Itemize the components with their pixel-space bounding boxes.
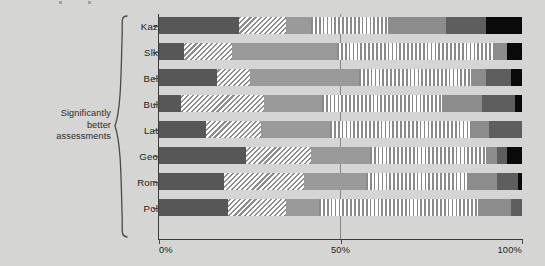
bar-row [159, 173, 522, 190]
y-axis-tick [153, 78, 158, 79]
bar-track [159, 121, 522, 138]
bar-segment-black [511, 69, 522, 86]
bar-track [159, 43, 522, 60]
bar-segment-vert [311, 17, 387, 34]
bar-segment-diag [181, 95, 264, 112]
bar-row [159, 69, 522, 86]
bar-segment-dark [159, 147, 246, 164]
bar-segment-diag [239, 17, 286, 34]
bar-segment-medium [250, 69, 359, 86]
category-axis-labels: KazSlkBelBulLatGeoRomPol [110, 14, 158, 239]
category-label-pol: Pol [114, 203, 158, 214]
bar-segment-diag [184, 43, 231, 60]
bar-segment-medium [261, 121, 330, 138]
x-axis-label-0: 0% [159, 245, 173, 255]
bar-segment-darkgray [497, 173, 519, 190]
category-label-geo: Geo [114, 151, 158, 162]
bar-segment-gray [471, 69, 486, 86]
plot-area [159, 14, 522, 239]
bar-segment-darkgray [511, 199, 522, 216]
bar-segment-gray [493, 43, 508, 60]
bar-row [159, 17, 522, 34]
bar-segment-dark [159, 121, 206, 138]
y-axis-tick [153, 130, 158, 131]
y-axis-tick [153, 208, 158, 209]
y-axis-tick [153, 104, 158, 105]
bar-segment-diag [246, 147, 311, 164]
bar-segment-dark [159, 69, 217, 86]
bar-segment-dark [159, 17, 239, 34]
bar-segment-dark [159, 173, 224, 190]
category-label-slk: Slk [114, 47, 158, 58]
bar-segment-diag [228, 199, 286, 216]
bar-track [159, 69, 522, 86]
bar-segment-diag [206, 121, 260, 138]
bar-segment-gray [471, 121, 489, 138]
x-axis-tick [341, 240, 342, 244]
category-group-annotation: Significantly better assessments [8, 108, 111, 143]
bar-segment-medium [304, 173, 366, 190]
x-axis-label-100: 100% [497, 245, 522, 255]
bar-segment-vert [319, 199, 479, 216]
category-label-kaz: Kaz [114, 21, 158, 32]
bar-segment-vert [330, 121, 472, 138]
bar-track [159, 199, 522, 216]
annotation-line-1: Significantly [8, 108, 111, 120]
bar-segment-gray [478, 199, 511, 216]
bar-row [159, 43, 522, 60]
category-label-bel: Bel [114, 73, 158, 84]
bar-segment-vert [370, 147, 486, 164]
bar-segment-medium [286, 17, 311, 34]
stacked-bar-chart: Significantly better assessments KazSlkB… [0, 0, 545, 266]
bar-row [159, 147, 522, 164]
bar-segment-medium [264, 95, 322, 112]
bar-track [159, 17, 522, 34]
bar-track [159, 173, 522, 190]
category-label-lat: Lat [114, 125, 158, 136]
bar-segment-gray [468, 173, 497, 190]
bar-segment-darkgray [497, 147, 508, 164]
bar-segment-black [486, 17, 522, 34]
bar-row [159, 95, 522, 112]
y-axis-tick [153, 52, 158, 53]
x-axis-tick [159, 240, 160, 244]
category-label-rom: Rom [114, 177, 158, 188]
bar-segment-darkgray [446, 17, 486, 34]
category-label-bul: Bul [114, 99, 158, 110]
bar-segment-black [518, 173, 522, 190]
bar-row [159, 121, 522, 138]
y-axis-tick [153, 156, 158, 157]
bar-segment-darkgray [482, 95, 515, 112]
bar-segment-black [507, 43, 522, 60]
bar-segment-dark [159, 95, 181, 112]
bar-segment-darkgray [489, 121, 522, 138]
bar-segment-diag [224, 173, 304, 190]
bar-segment-vert [359, 69, 472, 86]
bar-segment-gray [442, 95, 482, 112]
bar-row [159, 199, 522, 216]
bar-segment-black [515, 95, 522, 112]
bar-segment-darkgray [486, 69, 511, 86]
bar-segment-diag [217, 69, 250, 86]
scan-artifact [88, 1, 91, 4]
x-axis-label-50: 50% [331, 245, 350, 255]
bar-segment-dark [159, 43, 184, 60]
bar-track [159, 95, 522, 112]
bar-segment-black [507, 147, 522, 164]
y-axis-tick [153, 182, 158, 183]
bar-segment-dark [159, 199, 228, 216]
bar-segment-gray [388, 17, 446, 34]
x-axis-tick [522, 240, 523, 244]
scan-artifact [59, 1, 62, 4]
annotation-line-3: assessments [8, 131, 111, 143]
bar-segment-vert [337, 43, 493, 60]
bar-segment-medium [311, 147, 369, 164]
bar-track [159, 147, 522, 164]
bar-segment-medium [286, 199, 319, 216]
bar-segment-gray [486, 147, 497, 164]
bar-segment-vert [322, 95, 442, 112]
annotation-line-2: better [8, 120, 111, 132]
y-axis-tick [153, 26, 158, 27]
bar-segment-medium [232, 43, 337, 60]
bar-segment-vert [366, 173, 468, 190]
